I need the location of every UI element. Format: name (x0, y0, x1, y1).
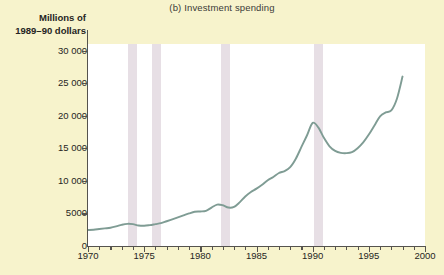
y-tick-mark-15000 (82, 148, 88, 149)
x-tick-minor-1976 (155, 246, 156, 250)
x-tick-label-1995: 1995 (349, 250, 389, 261)
y-tick-label-20000: 20 000 (17, 110, 87, 121)
x-tick-minor-1971 (99, 246, 100, 250)
x-tick-minor-1979 (189, 246, 190, 250)
chart-title-text: (b) Investment spending (169, 2, 274, 13)
y-tick-label-5000: 5000 (17, 207, 87, 218)
data-line-svg (88, 44, 425, 246)
x-tick-minor-1981 (212, 246, 213, 250)
x-tick-minor-1989 (301, 246, 302, 250)
y-tick-label-10000: 10 000 (17, 175, 87, 186)
x-tick-minor-1973 (122, 246, 123, 250)
y-tick-label-30000: 30 000 (17, 45, 87, 56)
y-axis-title-line1: Millions of (2, 12, 86, 25)
y-tick-mark-5000 (82, 213, 88, 214)
x-tick-minor-1992 (335, 246, 336, 250)
x-tick-minor-1983 (234, 246, 235, 250)
x-tick-label-1990: 1990 (293, 250, 333, 261)
x-tick-minor-1999 (414, 246, 415, 250)
x-tick-minor-1997 (391, 246, 392, 250)
x-tick-label-1985: 1985 (237, 250, 277, 261)
y-tick-mark-20000 (82, 116, 88, 117)
y-tick-mark-25000 (82, 83, 88, 84)
x-tick-minor-1984 (245, 246, 246, 250)
x-tick-minor-1993 (346, 246, 347, 250)
x-tick-minor-1996 (380, 246, 381, 250)
x-tick-minor-1987 (279, 246, 280, 250)
x-tick-minor-1982 (223, 246, 224, 250)
x-tick-minor-1978 (178, 246, 179, 250)
y-tick-label-25000: 25 000 (17, 77, 87, 88)
x-tick-minor-1991 (324, 246, 325, 250)
x-tick-minor-1994 (358, 246, 359, 250)
plot-area (88, 44, 425, 246)
y-tick-mark-30000 (82, 51, 88, 52)
x-tick-label-1975: 1975 (124, 250, 164, 261)
y-tick-label-15000: 15 000 (17, 142, 87, 153)
x-tick-label-2000: 2000 (405, 250, 444, 261)
x-tick-label-1980: 1980 (180, 250, 220, 261)
x-tick-minor-1998 (403, 246, 404, 250)
x-tick-minor-1972 (110, 246, 111, 250)
x-tick-minor-1988 (290, 246, 291, 250)
x-tick-minor-1986 (268, 246, 269, 250)
x-tick-minor-1977 (167, 246, 168, 250)
y-axis-title: Millions of 1989–90 dollars (2, 12, 86, 37)
series-line-investment-spending (88, 77, 403, 230)
x-tick-minor-1974 (133, 246, 134, 250)
y-tick-mark-10000 (82, 181, 88, 182)
x-tick-label-1970: 1970 (68, 250, 108, 261)
chart-figure: (b) Investment spending Millions of 1989… (0, 0, 444, 275)
y-axis-title-line2: 1989–90 dollars (2, 25, 86, 38)
